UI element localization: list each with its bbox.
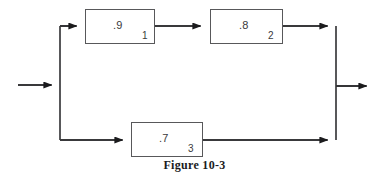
block-1-gain-label: .9 (113, 19, 123, 31)
block-3-gain-label: .7 (159, 132, 169, 144)
block-1-index-label: 1 (142, 30, 148, 41)
block-2-index-label: 2 (268, 30, 274, 41)
figure-container: .9 1 .8 2 .7 3 Figure 10-3 (0, 0, 389, 176)
block-2-gain-label: .8 (239, 19, 249, 31)
block-3-index-label: 3 (188, 143, 194, 154)
figure-caption: Figure 10-3 (0, 158, 389, 173)
